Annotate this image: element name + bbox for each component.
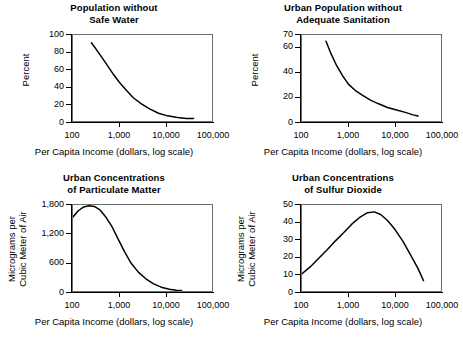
y-axis-tick xyxy=(66,233,72,234)
y-axis-tick xyxy=(295,257,301,258)
y-axis-tick xyxy=(66,292,72,293)
y-axis-tick-label: 30 xyxy=(229,235,293,244)
x-axis-title: Per Capita Income (dollars, log scale) xyxy=(0,146,228,157)
x-axis-title: Per Capita Income (dollars, log scale) xyxy=(229,316,457,327)
y-axis-tick xyxy=(66,104,72,105)
y-axis-tick xyxy=(295,122,301,123)
chart-panel-urban-population-without-adequate-sanitation: Urban Population without Adequate Sanita… xyxy=(229,0,457,169)
plot-area xyxy=(72,34,213,122)
x-axis-tick xyxy=(395,292,396,297)
x-axis-title: Per Capita Income (dollars, log scale) xyxy=(0,316,228,327)
chart-panel-urban-concentrations-of-particulate-matter: Urban Concentrations of Particulate Matt… xyxy=(0,170,228,339)
panel-title: Urban Concentrations of Particulate Matt… xyxy=(0,172,228,195)
y-axis-tick xyxy=(295,34,301,35)
y-axis-tick xyxy=(66,52,72,53)
y-axis-tick xyxy=(66,87,72,88)
y-axis-title-line-2: Cubic Meter of Air xyxy=(246,201,257,297)
x-axis-tick xyxy=(348,122,349,127)
panel-title: Population without Safe Water xyxy=(0,2,228,25)
y-axis-tick-label: 40 xyxy=(229,217,293,226)
y-axis-line xyxy=(300,204,301,293)
y-axis-tick-label: 0 xyxy=(0,118,64,127)
x-axis-tick xyxy=(166,122,167,127)
y-axis-title: Micrograms per Cubic Meter of Air xyxy=(235,201,257,297)
y-axis-tick xyxy=(295,274,301,275)
panel-title-line-1: Urban Concentrations xyxy=(229,172,457,184)
y-axis-tick xyxy=(295,239,301,240)
y-axis-tick-label: 600 xyxy=(0,258,64,267)
y-axis-tick-label: 100 xyxy=(0,30,64,39)
y-axis-tick-label: 0 xyxy=(0,288,64,297)
data-curve xyxy=(73,206,182,291)
y-axis-line xyxy=(71,204,72,293)
y-axis-tick-label: 60 xyxy=(229,42,293,51)
chart-panel-urban-concentrations-of-sulfur-dioxide: Urban Concentrations of Sulfur Dioxide M… xyxy=(229,170,457,339)
x-axis-tick-label: 100,000 xyxy=(412,130,463,140)
plot-curve-svg xyxy=(302,205,441,291)
y-axis-tick xyxy=(66,69,72,70)
y-axis-tick xyxy=(66,263,72,264)
y-axis-tick-label: 0 xyxy=(229,288,293,297)
plot-curve-svg xyxy=(73,205,212,291)
panel-title: Urban Concentrations of Sulfur Dioxide xyxy=(229,172,457,195)
y-axis-tick xyxy=(295,97,301,98)
y-axis-tick xyxy=(295,292,301,293)
y-axis-tick-label: 40 xyxy=(229,67,293,76)
plot-curve-svg xyxy=(73,35,212,121)
plot-curve-svg xyxy=(302,35,441,121)
x-axis-line xyxy=(300,292,443,293)
panel-title-line-1: Urban Concentrations xyxy=(0,172,228,184)
x-axis-line xyxy=(71,122,214,123)
y-axis-title-line-1: Micrograms per xyxy=(6,201,17,297)
y-axis-tick-label: 80 xyxy=(0,47,64,56)
x-axis-line xyxy=(71,292,214,293)
panel-title-line-1: Population without xyxy=(0,2,228,14)
y-axis-tick-label: 20 xyxy=(229,92,293,101)
data-curve xyxy=(326,41,418,116)
y-axis-tick-label: 1,800 xyxy=(0,200,64,209)
x-axis-tick-label: 100,000 xyxy=(412,300,463,310)
panel-title-line-1: Urban Population without xyxy=(229,2,457,14)
y-axis-tick xyxy=(66,34,72,35)
y-axis-tick-label: 0 xyxy=(229,118,293,127)
plot-area xyxy=(72,204,213,292)
x-axis-title: Per Capita Income (dollars, log scale) xyxy=(229,146,457,157)
x-axis-tick xyxy=(348,292,349,297)
panel-title-line-2: of Particulate Matter xyxy=(0,184,228,196)
y-axis-tick-label: 1,200 xyxy=(0,229,64,238)
y-axis-tick-label: 10 xyxy=(229,270,293,279)
data-curve xyxy=(302,212,424,281)
y-axis-title-line-2: Cubic Meter of Air xyxy=(17,201,28,297)
panel-title: Urban Population without Adequate Sanita… xyxy=(229,2,457,25)
y-axis-tick xyxy=(295,72,301,73)
y-axis-tick-label: 50 xyxy=(229,200,293,209)
y-axis-tick xyxy=(295,47,301,48)
y-axis-tick xyxy=(66,204,72,205)
plot-area xyxy=(301,204,442,292)
y-axis-tick-label: 40 xyxy=(0,82,64,91)
y-axis-tick xyxy=(66,122,72,123)
panel-title-line-2: Adequate Sanitation xyxy=(229,14,457,26)
y-axis-tick xyxy=(295,222,301,223)
y-axis-tick-label: 20 xyxy=(229,252,293,261)
x-axis-tick xyxy=(119,122,120,127)
x-axis-tick xyxy=(119,292,120,297)
y-axis-tick-label: 60 xyxy=(0,65,64,74)
x-axis-line xyxy=(300,122,443,123)
y-axis-tick-label: 70 xyxy=(229,30,293,39)
x-axis-tick xyxy=(166,292,167,297)
panel-title-line-2: Safe Water xyxy=(0,14,228,26)
y-axis-tick xyxy=(295,204,301,205)
plot-area xyxy=(301,34,442,122)
data-curve xyxy=(91,43,193,119)
y-axis-tick-label: 20 xyxy=(0,100,64,109)
y-axis-line xyxy=(71,34,72,123)
y-axis-title-line-1: Micrograms per xyxy=(235,201,246,297)
panel-title-line-2: of Sulfur Dioxide xyxy=(229,184,457,196)
x-axis-tick xyxy=(395,122,396,127)
chart-panel-population-without-safe-water: Population without Safe Water Percent 02… xyxy=(0,0,228,169)
y-axis-title: Micrograms per Cubic Meter of Air xyxy=(6,201,28,297)
